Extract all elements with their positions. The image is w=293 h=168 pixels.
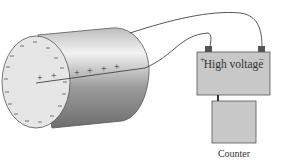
geiger-diagram: +++ +++ + – xyxy=(0,0,293,168)
svg-text:+: + xyxy=(87,65,93,76)
negative-terminal xyxy=(258,46,265,52)
high-voltage-label: High voltage xyxy=(197,58,270,71)
positive-terminal xyxy=(205,46,212,52)
svg-text:+: + xyxy=(51,70,57,81)
svg-text:+: + xyxy=(74,67,80,78)
tube-face xyxy=(2,36,70,128)
svg-text:+: + xyxy=(37,72,43,83)
svg-text:+: + xyxy=(101,63,107,74)
svg-text:+: + xyxy=(114,61,120,72)
tube-wire xyxy=(130,12,262,47)
counter-label: Counter xyxy=(205,148,263,159)
counter-box xyxy=(212,101,256,143)
